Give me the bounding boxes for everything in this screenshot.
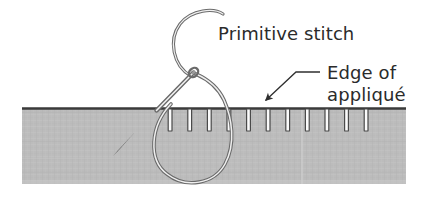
edge-of-applique-label-line2: appliqué — [327, 84, 406, 105]
primitive-stitch-illustration: Primitive stitch Edge of appliqué — [0, 0, 431, 206]
stitch — [247, 109, 251, 131]
edge-leader-line — [266, 72, 321, 101]
stitch — [325, 109, 329, 131]
stitch — [188, 109, 192, 131]
stitch — [286, 109, 290, 131]
stitch — [364, 109, 368, 131]
stitch — [168, 109, 172, 131]
edge-of-applique-label-line1: Edge of — [327, 62, 397, 83]
stitch — [266, 109, 270, 131]
needle-group — [157, 66, 201, 111]
stitch — [305, 109, 309, 131]
needle-shaft-highlight — [157, 73, 194, 111]
stitch — [207, 109, 211, 131]
thread-tail — [173, 11, 223, 76]
primitive-stitch-title: Primitive stitch — [218, 23, 354, 44]
illustration-canvas: Primitive stitch Edge of appliqué — [0, 0, 431, 206]
stitch — [345, 109, 349, 131]
